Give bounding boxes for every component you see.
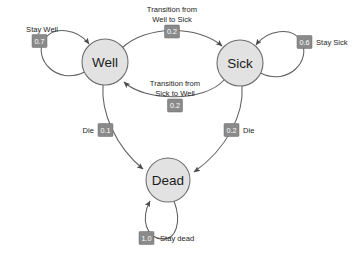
probability-value-sick-to-well: 0.2 [170, 101, 180, 110]
transition-well-to-dead[interactable]: Die 0.1 [83, 85, 143, 169]
edge-caption-well-to-well: Stay Well [26, 25, 58, 34]
edge-caption-well-to-sick-line1: Transition from [147, 5, 197, 14]
probability-value-well-to-sick: 0.2 [167, 27, 177, 36]
edge-caption-sick-to-well-line2: Sick to Well [155, 89, 195, 98]
state-label-well: Well [92, 55, 118, 70]
edge-caption-sick-to-well-line1: Transition from [150, 79, 200, 88]
edge-path-sick-to-sick [256, 32, 304, 77]
probability-value-dead-to-dead: 1.0 [142, 234, 152, 243]
probability-value-sick-to-dead: 0.2 [227, 126, 237, 135]
markov-chain-diagram: Stay Well 0.7 Transition from Well to Si… [0, 0, 353, 254]
state-node-sick[interactable]: Sick [217, 40, 263, 86]
transition-sick-to-well[interactable]: Transition from Sick to Well 0.2 [124, 79, 224, 113]
transition-sick-to-sick[interactable]: 0.6 Stay Sick [256, 32, 348, 77]
state-node-well[interactable]: Well [82, 39, 128, 85]
transition-sick-to-dead[interactable]: 0.2 Die [194, 86, 254, 172]
transition-well-to-sick[interactable]: Transition from Well to Sick 0.2 [122, 5, 222, 49]
edge-caption-sick-to-sick: Stay Sick [316, 38, 348, 47]
edge-caption-dead-to-dead: Stay dead [160, 234, 194, 243]
state-node-dead[interactable]: Dead [146, 158, 190, 202]
edge-caption-sick-to-dead: Die [243, 126, 254, 135]
edge-caption-well-to-sick-line2: Well to Sick [152, 15, 192, 24]
state-label-sick: Sick [227, 56, 253, 71]
transition-well-to-well[interactable]: Stay Well 0.7 [26, 25, 89, 76]
edge-path-well-to-well [41, 31, 89, 76]
transition-dead-to-dead[interactable]: 1.0 Stay dead [139, 201, 194, 245]
probability-value-well-to-dead: 0.1 [101, 126, 111, 135]
probability-value-well-to-well: 0.7 [35, 37, 45, 46]
state-label-dead: Dead [152, 173, 184, 188]
probability-value-sick-to-sick: 0.6 [300, 38, 310, 47]
edge-caption-well-to-dead: Die [83, 126, 94, 135]
